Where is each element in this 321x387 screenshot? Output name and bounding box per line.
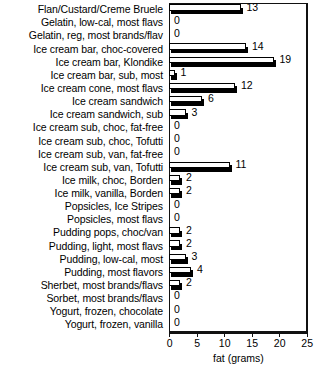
bar-row: 1 bbox=[169, 69, 308, 83]
bar bbox=[169, 188, 180, 195]
bar-value-label: 2 bbox=[186, 225, 192, 236]
bar-value-label: 6 bbox=[208, 93, 214, 104]
category-label: Sorbet, most brands/flavs bbox=[46, 293, 163, 304]
category-label: Popsicles, Ice Stripes bbox=[65, 201, 163, 212]
category-label: Pudding, light, most flavs bbox=[49, 241, 163, 252]
bar-chart: Flan/Custard/Creme BrueleGelatin, low-ca… bbox=[0, 0, 321, 387]
category-label: Pudding, most flavors bbox=[64, 267, 163, 278]
bar-row: 2 bbox=[169, 279, 308, 293]
category-label: Gelatin, reg, most brands/flav bbox=[29, 30, 163, 41]
bar-value-label: 14 bbox=[252, 41, 264, 52]
category-label: Gelatin, low-cal, most flavs bbox=[41, 17, 163, 28]
category-label: Yogurt, frozen, chocolate bbox=[50, 306, 163, 317]
bar-value-label: 0 bbox=[174, 212, 180, 223]
bar-row: 0 bbox=[169, 134, 308, 148]
bar-value-label: 11 bbox=[236, 159, 247, 170]
bar bbox=[169, 162, 230, 169]
bar-row: 3 bbox=[169, 108, 308, 122]
bar-value-label: 0 bbox=[174, 304, 180, 315]
x-axis-line bbox=[169, 332, 308, 334]
bar-value-label: 0 bbox=[174, 15, 180, 26]
category-label: Ice cream cone, most flavs bbox=[41, 83, 163, 94]
bar-value-label: 2 bbox=[186, 185, 192, 196]
bar-value-label: 0 bbox=[174, 120, 180, 131]
x-tick-label: 25 bbox=[301, 338, 313, 349]
bar bbox=[169, 175, 180, 182]
bar bbox=[169, 227, 180, 234]
x-tick-label: 10 bbox=[219, 338, 231, 349]
bar-value-label: 0 bbox=[174, 199, 180, 210]
bar-row: 2 bbox=[169, 239, 308, 253]
bar-value-label: 0 bbox=[174, 317, 180, 328]
bar-value-label: 0 bbox=[174, 28, 180, 39]
category-label: Ice cream sub, choc, Tofutti bbox=[38, 136, 163, 147]
bar-value-label: 12 bbox=[241, 80, 253, 91]
bar-value-label: 2 bbox=[186, 238, 192, 249]
bar-row: 0 bbox=[169, 29, 308, 43]
bar-row: 0 bbox=[169, 292, 308, 306]
bar bbox=[169, 240, 180, 247]
bar-value-label: 3 bbox=[192, 107, 198, 118]
category-label: Sherbet, most brands/flavs bbox=[41, 280, 163, 291]
x-axis-title: fat (grams) bbox=[169, 353, 308, 364]
category-axis-labels: Flan/Custard/Creme BrueleGelatin, low-ca… bbox=[0, 3, 166, 332]
category-label: Ice cream sandwich bbox=[72, 96, 163, 107]
bar-row: 12 bbox=[169, 82, 308, 96]
bar bbox=[169, 83, 235, 90]
category-label: Ice cream bar, Klondike bbox=[56, 57, 163, 68]
bar-row: 13 bbox=[169, 3, 308, 17]
bar-value-label: 13 bbox=[247, 2, 259, 13]
category-label: Ice milk, choc, Borden bbox=[62, 175, 163, 186]
category-label: Ice cream sandwich, sub bbox=[50, 109, 163, 120]
bar-value-label: 0 bbox=[174, 290, 180, 301]
x-tick-label: 15 bbox=[246, 338, 258, 349]
category-label: Ice cream sub, van, fat-free bbox=[38, 149, 163, 160]
bar bbox=[169, 109, 186, 116]
category-label: Ice milk, vanilla, Borden bbox=[55, 188, 163, 199]
bar bbox=[169, 96, 202, 103]
bar bbox=[169, 280, 180, 287]
category-label: Ice cream bar, choc-covered bbox=[33, 44, 163, 55]
x-tick-label: 20 bbox=[274, 338, 286, 349]
bar-row: 0 bbox=[169, 121, 308, 135]
category-label: Popsicles, most flavs bbox=[67, 214, 163, 225]
bar-row: 3 bbox=[169, 253, 308, 267]
bar-value-label: 0 bbox=[174, 146, 180, 157]
bar-value-label: 4 bbox=[197, 264, 203, 275]
bar-row: 0 bbox=[169, 305, 308, 319]
category-label: Pudding pops, choc/van bbox=[53, 227, 163, 238]
bar-value-label: 2 bbox=[186, 277, 192, 288]
bar-row: 6 bbox=[169, 95, 308, 109]
bar-row: 0 bbox=[169, 318, 308, 332]
bar-value-label: 19 bbox=[280, 54, 292, 65]
bar bbox=[169, 267, 191, 274]
bar-value-label: 0 bbox=[174, 133, 180, 144]
category-label: Ice cream sub, choc, fat-free bbox=[33, 122, 163, 133]
bar-row: 0 bbox=[169, 16, 308, 30]
bar bbox=[169, 70, 175, 77]
bar-row: 0 bbox=[169, 200, 308, 214]
category-label: Ice cream sub, van, Tofutti bbox=[43, 162, 163, 173]
category-label: Flan/Custard/Creme Bruele bbox=[38, 4, 163, 15]
bar-value-label: 2 bbox=[186, 172, 192, 183]
x-tick-label: 5 bbox=[194, 338, 200, 349]
bar-value-label: 3 bbox=[192, 251, 198, 262]
x-tick-label: 0 bbox=[167, 338, 173, 349]
bar bbox=[169, 57, 274, 64]
bar bbox=[169, 254, 186, 261]
bars-layer: 130014191126300011220022342000 bbox=[169, 3, 308, 332]
category-label: Yogurt, frozen, vanilla bbox=[65, 319, 163, 330]
category-label: Pudding, low-cal, most bbox=[60, 254, 163, 265]
bar bbox=[169, 4, 241, 11]
bar-row: 19 bbox=[169, 56, 308, 70]
bar-value-label: 1 bbox=[181, 67, 187, 78]
category-label: Ice cream bar, sub, most bbox=[50, 70, 163, 81]
bar-row: 2 bbox=[169, 187, 308, 201]
bar bbox=[169, 43, 246, 50]
